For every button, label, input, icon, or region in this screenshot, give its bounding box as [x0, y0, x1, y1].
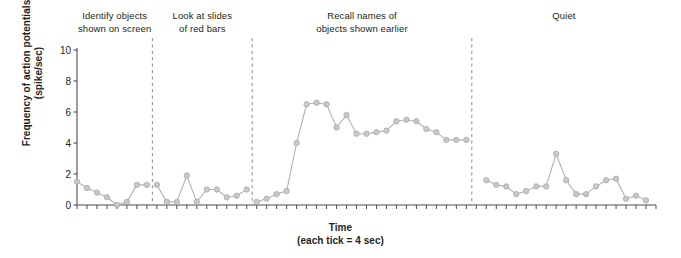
data-point-marker — [294, 140, 299, 145]
data-point-marker — [643, 198, 648, 203]
data-point-marker — [264, 196, 269, 201]
data-point-marker — [484, 178, 489, 183]
data-point-marker — [124, 199, 129, 204]
y-axis-tick-label: 2 — [65, 169, 71, 180]
data-point-marker — [94, 190, 99, 195]
data-point-marker — [304, 102, 309, 107]
data-point-marker — [524, 188, 529, 193]
neuron-firing-rate-figure: Frequency of action potentials (spike/se… — [0, 0, 681, 258]
data-point-marker — [563, 178, 568, 183]
data-point-marker — [514, 191, 519, 196]
plot-area: 0246810 — [0, 0, 681, 258]
data-point-marker — [414, 119, 419, 124]
data-point-marker — [464, 137, 469, 142]
series-line — [257, 103, 467, 202]
data-point-marker — [374, 129, 379, 134]
y-axis-tick-label: 4 — [65, 138, 71, 149]
data-point-marker — [344, 112, 349, 117]
data-point-marker — [613, 176, 618, 181]
data-point-marker — [593, 184, 598, 189]
data-point-marker — [174, 199, 179, 204]
data-point-marker — [354, 131, 359, 136]
data-point-marker — [104, 195, 109, 200]
data-point-marker — [334, 125, 339, 130]
data-point-marker — [74, 179, 79, 184]
data-point-marker — [154, 182, 159, 187]
phase-divider-lines — [152, 38, 471, 205]
y-axis-tick-label: 0 — [65, 200, 71, 211]
series-line — [157, 176, 247, 202]
data-point-marker — [573, 191, 578, 196]
data-point-marker — [314, 100, 319, 105]
data-point-marker — [164, 199, 169, 204]
data-point-marker — [603, 178, 608, 183]
data-point-marker — [384, 128, 389, 133]
data-point-marker — [444, 137, 449, 142]
data-point-marker — [543, 184, 548, 189]
data-point-marker — [623, 196, 628, 201]
data-point-marker — [204, 187, 209, 192]
data-point-marker — [434, 129, 439, 134]
data-point-marker — [224, 195, 229, 200]
data-point-marker — [583, 191, 588, 196]
data-point-marker — [84, 185, 89, 190]
data-point-marker — [114, 202, 119, 207]
data-point-marker — [134, 182, 139, 187]
data-point-marker — [394, 119, 399, 124]
data-point-marker — [144, 182, 149, 187]
data-point-marker — [274, 191, 279, 196]
data-point-marker — [254, 199, 259, 204]
data-point-marker — [534, 184, 539, 189]
data-point-marker — [553, 151, 558, 156]
data-point-marker — [494, 182, 499, 187]
y-axis-tick-label: 6 — [65, 107, 71, 118]
data-point-marker — [184, 173, 189, 178]
data-point-marker — [284, 188, 289, 193]
x-axis-label: Time (each tick = 4 sec) — [0, 222, 681, 247]
data-point-marker — [324, 102, 329, 107]
data-series-group — [74, 100, 648, 208]
y-axis-tick-label: 10 — [60, 45, 72, 56]
data-point-marker — [214, 187, 219, 192]
data-point-marker — [244, 187, 249, 192]
data-point-marker — [454, 137, 459, 142]
y-axis-tick-label: 8 — [65, 76, 71, 87]
data-point-marker — [424, 126, 429, 131]
data-point-marker — [194, 199, 199, 204]
data-point-marker — [404, 117, 409, 122]
data-point-marker — [364, 131, 369, 136]
data-point-marker — [504, 184, 509, 189]
data-point-marker — [633, 193, 638, 198]
data-point-marker — [234, 193, 239, 198]
